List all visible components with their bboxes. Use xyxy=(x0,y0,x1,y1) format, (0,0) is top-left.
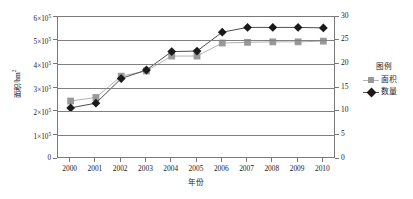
y-axis-left-tick-label: 1×105 xyxy=(11,130,51,141)
plot-area xyxy=(57,16,335,158)
gridline xyxy=(58,88,334,89)
diamond-marker xyxy=(294,23,303,32)
y-axis-left-title-text: 面积/hm xyxy=(13,72,22,98)
y-axis-right-tick-label: 20 xyxy=(341,59,363,67)
gridline xyxy=(58,111,334,112)
y-axis-left-title-superscript: 2 xyxy=(11,70,17,73)
y-axis-right-tick-label: 10 xyxy=(341,106,363,114)
y-axis-right-tick-label: 5 xyxy=(341,130,363,138)
diamond-marker xyxy=(268,23,277,32)
legend-item-area: 面积 xyxy=(363,74,397,86)
y-axis-right-tick-label: 25 xyxy=(341,35,363,43)
gridline xyxy=(58,135,334,136)
legend-label-area: 面积 xyxy=(381,74,397,86)
legend-item-quantity: 数量 xyxy=(363,86,397,98)
square-marker-icon xyxy=(363,76,379,85)
square-marker xyxy=(67,98,74,105)
chart-container: 01×1052×1053×1054×1055×1056×105 05101520… xyxy=(0,0,413,199)
legend-title: 图例 xyxy=(363,61,397,73)
y-axis-left-tick-label: 6×105 xyxy=(11,12,51,23)
y-axis-left-tick-label: 0 xyxy=(11,154,51,162)
x-axis-tick-label: 2010 xyxy=(305,164,339,173)
legend: 图例 面积 数量 xyxy=(363,61,397,98)
y-axis-right-tick-label: 30 xyxy=(341,12,363,20)
y-axis-right-tick-label: 15 xyxy=(341,83,363,91)
diamond-marker-icon xyxy=(363,88,379,97)
y-axis-left-title: 面积/hm2 xyxy=(10,46,21,122)
diamond-marker xyxy=(218,28,227,37)
gridline xyxy=(58,64,334,65)
diamond-marker xyxy=(319,23,328,32)
gridline xyxy=(58,40,334,41)
diamond-marker xyxy=(243,23,252,32)
x-axis-title-text: 年份 xyxy=(188,178,204,187)
series-quantity xyxy=(66,23,328,112)
y-axis-right-tick-label: 0 xyxy=(341,154,363,162)
x-axis-title: 年份 xyxy=(57,176,335,187)
legend-label-quantity: 数量 xyxy=(381,86,397,98)
